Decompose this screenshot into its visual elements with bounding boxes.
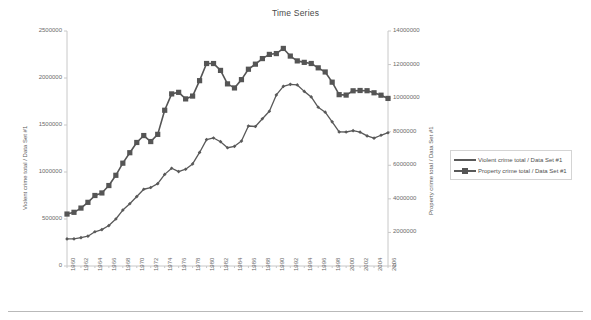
series-marker [65, 237, 69, 241]
x-axis-tick-label: 2002 [363, 258, 369, 271]
series-marker [92, 193, 97, 198]
y-axis-right-tick-label: 2000000 [393, 228, 416, 234]
series-marker [371, 90, 376, 95]
series-marker [106, 183, 111, 188]
series-marker [344, 92, 349, 97]
x-axis-tick-label: 1984 [237, 258, 243, 271]
y-axis-left-tick-label: 2500000 [10, 27, 62, 33]
series-marker [274, 51, 279, 56]
series-marker [232, 85, 237, 90]
series-marker [176, 90, 181, 95]
series-marker [364, 88, 369, 93]
series-marker [295, 58, 300, 63]
x-axis-tick-label: 1974 [167, 258, 173, 271]
series-marker [372, 136, 376, 140]
x-axis-tick-label: 1986 [251, 258, 257, 271]
y-axis-right-tick-label: 14000000 [393, 27, 420, 33]
series-marker [316, 65, 321, 70]
series-marker [288, 83, 292, 87]
series-marker [64, 211, 69, 216]
y-axis-left-tick-label: 0 [10, 262, 62, 268]
series-marker [72, 237, 76, 241]
x-axis-tick-label: 1980 [209, 258, 215, 271]
series-marker [190, 93, 195, 98]
series-marker [141, 133, 146, 138]
chart-title: Time Series [0, 8, 591, 18]
series-marker [302, 60, 307, 65]
y-axis-left-tick-label: 1500000 [10, 121, 62, 127]
legend-key-square-marker-icon [454, 166, 476, 175]
series-marker [239, 77, 244, 82]
series-marker [120, 161, 125, 166]
series-marker [281, 46, 286, 51]
series-marker [253, 62, 258, 67]
series-marker [71, 210, 76, 215]
series-marker [260, 56, 265, 61]
x-axis-tick-label: 1966 [111, 258, 117, 271]
x-axis-tick-label: 1968 [125, 258, 131, 271]
series-marker [351, 129, 355, 133]
y-axis-left-tick-label: 2000000 [10, 74, 62, 80]
x-axis-tick-label: 1978 [195, 258, 201, 271]
x-axis-tick-label: 1988 [265, 258, 271, 271]
y-axis-left-tick-label: 1000000 [10, 168, 62, 174]
series-marker [323, 69, 328, 74]
bottom-divider [8, 311, 583, 312]
legend-item-violent[interactable]: Violent crime total / Data Set #1 [454, 154, 567, 165]
series-marker [85, 200, 90, 205]
x-axis-tick-label: 2004 [377, 258, 383, 271]
x-axis-tick-label: 1964 [97, 258, 103, 271]
x-axis-tick-label: 1976 [181, 258, 187, 271]
series-marker [385, 96, 390, 101]
x-axis-tick-label: 1960 [70, 258, 76, 271]
series-marker [79, 236, 83, 240]
series-line [67, 84, 388, 239]
x-axis-tick-label: 1992 [293, 258, 299, 271]
x-axis-tick-label: 1982 [223, 258, 229, 271]
x-axis-tick-label: 2006 [391, 258, 397, 271]
series-marker [155, 132, 160, 137]
series-marker [267, 52, 272, 57]
y-axis-right-tick-label: 4000000 [393, 195, 416, 201]
series-marker [379, 133, 383, 137]
series-marker [337, 92, 342, 97]
series-layer [64, 46, 390, 241]
x-axis-tick-label: 1990 [279, 258, 285, 271]
series-marker [309, 61, 314, 66]
legend-item-property[interactable]: Property crime total / Data Set #1 [454, 165, 567, 176]
series-marker [357, 88, 362, 93]
legend-label-violent: Violent crime total / Data Set #1 [478, 157, 562, 163]
legend-label-property: Property crime total / Data Set #1 [478, 168, 567, 174]
series-marker [288, 53, 293, 58]
series-marker [78, 205, 83, 210]
x-axis-tick-label: 2000 [349, 258, 355, 271]
series-marker [134, 140, 139, 145]
x-axis-tick-label: 1996 [321, 258, 327, 271]
time-series-chart: Time Series Violent crime total / Data S… [0, 0, 591, 320]
y-axis-right-title: Property crime total / Data Set #1 [428, 126, 434, 215]
series-marker [169, 91, 174, 96]
series-marker [225, 81, 230, 86]
series-marker [148, 139, 153, 144]
y-axis-right-tick-label: 10000000 [393, 94, 420, 100]
series-marker [183, 96, 188, 101]
y-axis-right-tick-label: 8000000 [393, 128, 416, 134]
y-axis-right-tick-label: 6000000 [393, 161, 416, 167]
series-marker [113, 173, 118, 178]
legend-key-line-icon [454, 155, 476, 164]
series-marker [162, 108, 167, 113]
x-axis-tick-label: 1998 [335, 258, 341, 271]
series-marker [204, 61, 209, 66]
y-axis-right-tick-label: 12000000 [393, 61, 420, 67]
x-axis-tick-label: 1972 [153, 258, 159, 271]
series-marker [351, 88, 356, 93]
series-marker [330, 80, 335, 85]
chart-legend: Violent crime total / Data Set #1 Proper… [450, 150, 572, 180]
series-marker [99, 190, 104, 195]
y-axis-left-tick-label: 500000 [10, 215, 62, 221]
x-axis-tick-label: 1994 [307, 258, 313, 271]
series-marker [218, 68, 223, 73]
series-marker [344, 130, 348, 134]
x-axis-tick-label: 1970 [139, 258, 145, 271]
series-marker [378, 93, 383, 98]
